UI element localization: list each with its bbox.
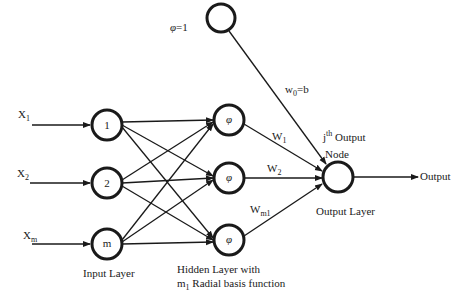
input-node-2-label: 2 [92,178,122,189]
weight-w1: W1 [272,131,286,142]
hidden-node-1-label: φ [214,114,244,125]
input-var-m: Xm [23,230,37,241]
input-layer-label: Input Layer [83,268,135,279]
output-node [323,162,353,192]
output-layer-label: Output Layer [316,206,375,217]
input-node-1-label: 1 [92,120,122,131]
bias-weight-label: w0=b [285,84,309,95]
input-var-2: X2 [17,168,29,179]
bias-label: φ=1 [170,22,188,33]
network-diagram [0,0,467,298]
output-node-caption-line2: Node [325,149,349,160]
input-node-m-label: m [92,238,122,249]
hidden-node-2-label: φ [214,172,244,183]
weight-w2: W2 [267,163,281,174]
input-var-1: X1 [18,109,30,120]
hidden-node-3-label: φ [214,234,244,245]
hidden-layer-label-line1: Hidden Layer with [177,264,260,275]
bias-node [207,4,235,32]
weight-wm1: Wm1 [250,204,271,215]
output-label: Output [420,171,451,182]
hidden-layer-label-line2: m1 Radial basis function [177,278,285,289]
output-node-caption-line1: jth Output [323,132,366,143]
